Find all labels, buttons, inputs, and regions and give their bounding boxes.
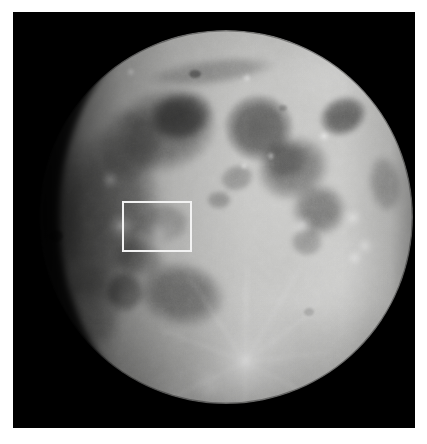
region-of-interest-box[interactable] [122,201,192,252]
photo-frame [13,12,415,428]
moon-figure [0,0,427,444]
moon-image [13,12,415,428]
